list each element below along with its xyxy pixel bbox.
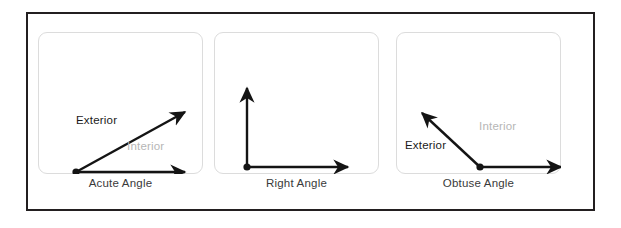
obtuse-exterior-label: Exterior [405,139,446,151]
panel-acute-angle: Exterior Interior Acute Angle [38,32,203,192]
right-angle-caption: Right Angle [214,177,379,189]
right-angle-diagram [214,32,379,174]
acute-exterior-label: Exterior [76,114,117,126]
obtuse-vertex-dot [476,163,483,170]
figure-border: Exterior Interior Acute Angle Right Angl… [26,12,595,211]
acute-angle-caption: Acute Angle [38,177,203,189]
acute-interior-label: Interior [127,140,164,152]
acute-angle-diagram: Exterior Interior [38,32,203,174]
obtuse-interior-label: Interior [479,120,516,132]
acute-vertex-dot [72,168,79,174]
obtuse-angle-caption: Obtuse Angle [396,177,561,189]
right-vertex-dot [243,163,250,170]
panel-obtuse-angle: Exterior Interior Obtuse Angle [396,32,561,192]
obtuse-angle-diagram: Exterior Interior [396,32,561,174]
panel-right-angle: Right Angle [214,32,379,192]
